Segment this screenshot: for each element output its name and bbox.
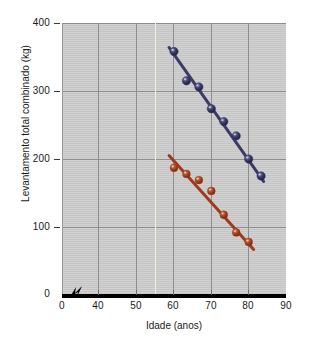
chart-figure: Homens Mulheres 400 300 200 100 0 0 40 5… (0, 0, 335, 343)
data-point (244, 155, 252, 163)
x-axis-line (62, 294, 286, 298)
data-point-highlight (246, 157, 249, 159)
x-axis-title: Idade (anos) (62, 320, 286, 331)
x-tick-mark-50 (136, 290, 137, 295)
y-tick-label-0: 0 (24, 288, 50, 299)
series-homens (169, 47, 265, 181)
data-point-highlight (258, 174, 261, 176)
data-point-highlight (196, 178, 198, 180)
data-point-highlight (221, 212, 223, 214)
data-point (232, 229, 240, 237)
y-tick-mark-200 (54, 159, 60, 160)
plot-area: Homens Mulheres (62, 23, 286, 295)
x-tick-mark-80 (248, 290, 249, 295)
y-axis-line (62, 23, 63, 295)
data-point-highlight (171, 49, 174, 51)
data-point (207, 187, 215, 195)
x-tick-label-0: 0 (52, 300, 72, 311)
series-mulheres (169, 156, 254, 250)
data-point (195, 83, 203, 91)
trendline-mulheres (169, 156, 254, 250)
y-axis-title: Levantamento total combinado (kg) (20, 24, 31, 224)
data-point-highlight (209, 106, 212, 108)
x-tick-mark-60 (173, 290, 174, 295)
x-tick-mark-40 (98, 290, 99, 295)
y-tick-mark-100 (54, 227, 60, 228)
data-point-highlight (234, 230, 236, 232)
data-point-highlight (246, 240, 248, 242)
data-point-highlight (234, 133, 237, 135)
data-point (220, 117, 228, 125)
x-tick-label-60: 60 (163, 300, 183, 311)
data-point-highlight (221, 119, 224, 121)
data-point (170, 164, 178, 172)
data-point-highlight (209, 189, 211, 191)
x-tick-mark-70 (211, 290, 212, 295)
x-tick-label-90: 90 (276, 300, 296, 311)
data-point-highlight (184, 78, 187, 80)
x-tick-label-40: 40 (88, 300, 108, 311)
y-tick-mark-400 (54, 23, 60, 24)
data-point (245, 238, 253, 246)
data-point (195, 176, 203, 184)
x-tick-label-50: 50 (126, 300, 146, 311)
data-point (257, 172, 265, 180)
data-point (170, 47, 178, 55)
y-tick-mark-300 (54, 91, 60, 92)
data-point (220, 211, 228, 219)
data-point-highlight (172, 166, 174, 168)
data-point (183, 170, 191, 178)
x-tick-label-80: 80 (238, 300, 258, 311)
data-point-highlight (196, 84, 199, 86)
data-point (207, 104, 215, 112)
data-point-highlight (184, 172, 186, 174)
x-tick-label-70: 70 (201, 300, 221, 311)
data-point (182, 77, 190, 85)
data-series-overlay (62, 23, 286, 295)
data-point (232, 132, 240, 140)
